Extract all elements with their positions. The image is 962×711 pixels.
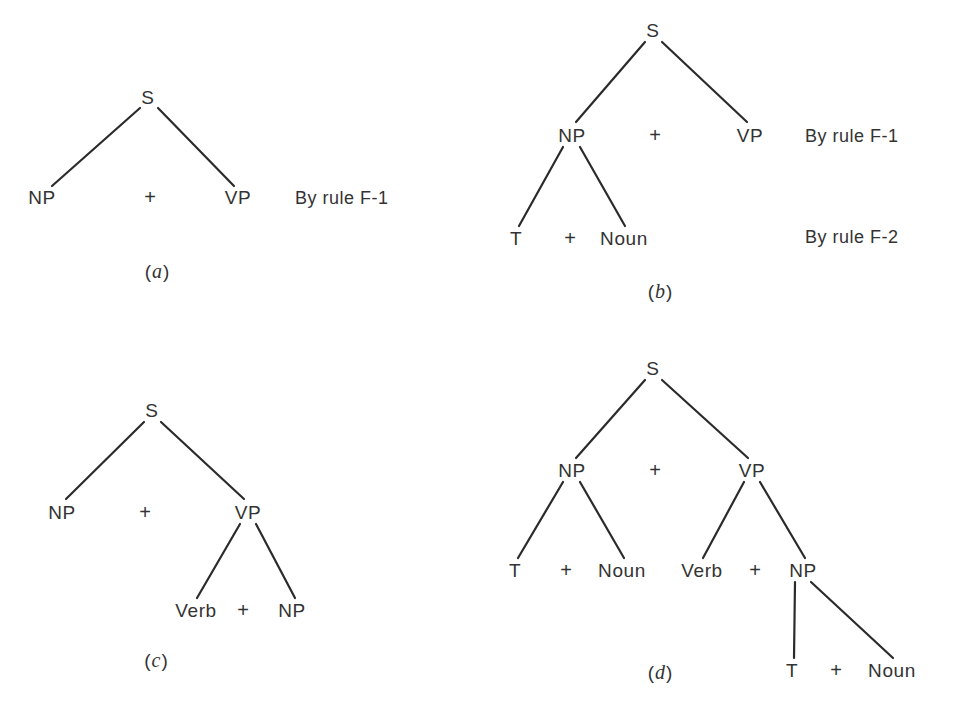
panel-c-node-vp: VP — [235, 503, 262, 522]
panel-b-plus-sign: + — [649, 125, 661, 145]
caption-close-paren: ) — [163, 261, 169, 282]
tree-edge — [760, 482, 805, 558]
panel-b-node-np: NP — [558, 126, 586, 145]
panel-c-plus-sign: + — [237, 600, 249, 620]
panel-caption-a: (a) — [145, 262, 170, 281]
panel-c-node-s: S — [145, 401, 158, 420]
panel-d-plus-sign: + — [560, 560, 572, 580]
phrase-structure-figure: SNP+VPBy rule F-1(a)SNP+VPT+NounBy rule … — [0, 0, 962, 711]
panel-d-node-np: NP — [558, 461, 586, 480]
panel-b-rule-note: By rule F-2 — [805, 228, 899, 246]
tree-edge — [52, 108, 140, 186]
panel-d-node-np: NP — [789, 561, 817, 580]
panel-c-plus-sign: + — [139, 502, 151, 522]
panel-caption-c: (c) — [144, 651, 168, 670]
caption-letter: a — [151, 260, 163, 282]
tree-edge — [794, 582, 795, 658]
panel-b-node-t: T — [510, 229, 522, 248]
panel-a-rule-note: By rule F-1 — [295, 189, 389, 207]
panel-d-node-vp: VP — [739, 461, 766, 480]
caption-close-paren: ) — [161, 650, 167, 671]
panel-b-node-s: S — [646, 21, 659, 40]
panel-d-node-t: T — [509, 561, 521, 580]
caption-close-paren: ) — [666, 662, 672, 683]
tree-edge — [197, 524, 240, 598]
caption-letter: b — [654, 280, 666, 302]
tree-edge — [576, 42, 645, 122]
tree-edge — [811, 582, 893, 658]
panel-c-node-verb: Verb — [175, 601, 217, 620]
caption-letter: c — [151, 649, 162, 671]
panel-caption-d: (d) — [648, 663, 673, 682]
panel-a-plus-sign: + — [144, 187, 156, 207]
tree-edge — [66, 422, 144, 499]
panel-c-node-np: NP — [48, 503, 76, 522]
caption-letter: d — [654, 661, 666, 683]
panel-a-node-s: S — [141, 88, 154, 107]
panel-b-node-noun: Noun — [600, 229, 648, 248]
panel-d-node-noun: Noun — [598, 561, 646, 580]
tree-edge — [580, 147, 625, 226]
panel-d-node-verb: Verb — [681, 561, 723, 580]
tree-edge — [519, 147, 563, 226]
tree-edge — [158, 108, 234, 186]
caption-close-paren: ) — [666, 281, 672, 302]
tree-edge — [703, 482, 744, 558]
panel-c-node-np: NP — [278, 601, 306, 620]
panel-d-node-noun: Noun — [868, 661, 916, 680]
panel-a-node-np: NP — [28, 188, 56, 207]
tree-edge — [662, 380, 748, 458]
panel-b-node-vp: VP — [737, 126, 764, 145]
panel-b-rule-note: By rule F-1 — [805, 127, 899, 145]
tree-edge — [256, 524, 295, 598]
panel-d-node-s: S — [646, 359, 659, 378]
tree-edge — [518, 482, 563, 558]
tree-edge — [161, 422, 244, 499]
panel-d-plus-sign: + — [649, 460, 661, 480]
panel-caption-b: (b) — [648, 282, 673, 301]
tree-edge — [580, 482, 624, 558]
panel-b-plus-sign: + — [564, 228, 576, 248]
tree-edge — [662, 42, 747, 122]
panel-d-plus-sign: + — [749, 560, 761, 580]
panel-d-node-t: T — [786, 661, 798, 680]
panel-a-node-vp: VP — [225, 188, 252, 207]
tree-edge — [576, 380, 645, 458]
panel-d-plus-sign: + — [830, 660, 842, 680]
